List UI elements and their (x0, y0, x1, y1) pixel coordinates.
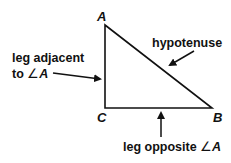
hypotenuse-arrow (170, 51, 194, 65)
opposite-leg-label: leg opposite ∠A (123, 140, 221, 154)
hypotenuse-label: hypotenuse (152, 36, 222, 50)
vertex-a-label: A (96, 9, 106, 24)
adjacent-leg-label-line2: to ∠A (12, 67, 48, 81)
vertex-c-label: C (97, 110, 107, 125)
triangle-diagram: A C B hypotenuse leg adjacent to ∠A leg … (0, 0, 231, 163)
vertex-b-label: B (213, 110, 222, 125)
adjacent-leg-label-line1: leg adjacent (12, 51, 85, 65)
adjacent-leg-arrow (53, 73, 100, 79)
